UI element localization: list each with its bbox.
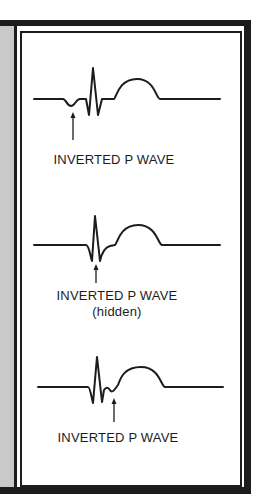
panel-1-label: INVERTED P WAVE xyxy=(34,152,194,167)
panel-3-label: INVERTED P WAVE xyxy=(38,430,198,445)
arrow-up-icon-3 xyxy=(112,398,117,422)
panel-2-label: INVERTED P WAVE xyxy=(37,288,197,303)
ecg-waveform-2 xyxy=(34,216,220,261)
ecg-waveform-1 xyxy=(34,68,220,115)
ecg-diagram xyxy=(0,0,264,501)
arrow-up-icon-1 xyxy=(71,112,76,140)
arrow-up-icon-2 xyxy=(94,264,99,283)
panel-2-sublabel: (hidden) xyxy=(37,304,197,319)
ecg-waveform-3 xyxy=(38,357,223,403)
